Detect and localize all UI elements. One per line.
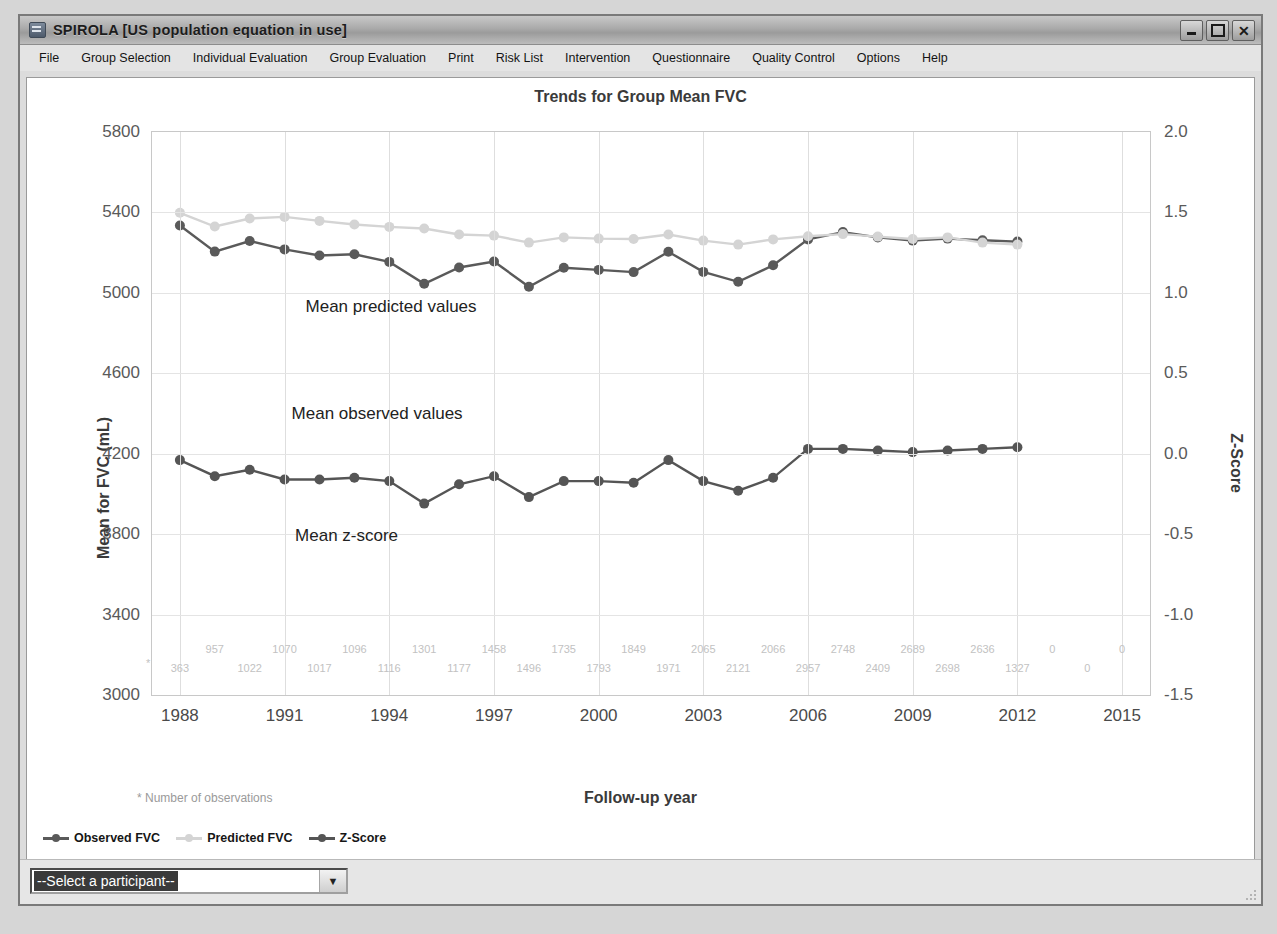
status-bar: --Select a participant-- ▼ bbox=[20, 859, 1261, 904]
gridline-vertical bbox=[494, 132, 495, 695]
x-axis-tick-label: 1988 bbox=[161, 706, 199, 726]
observation-count: 1849 bbox=[621, 643, 645, 655]
legend-marker-icon bbox=[176, 833, 202, 843]
observation-count: 2698 bbox=[935, 662, 959, 674]
maximize-icon[interactable] bbox=[1206, 20, 1229, 41]
observation-count: 0 bbox=[1049, 643, 1055, 655]
y-axis-tick-label-right: -0.5 bbox=[1164, 524, 1234, 544]
observation-count: 1735 bbox=[552, 643, 576, 655]
gridline-vertical bbox=[599, 132, 600, 695]
gridline-horizontal bbox=[152, 615, 1150, 616]
menu-item-file[interactable]: File bbox=[28, 47, 70, 69]
y-axis-tick-label-right: 2.0 bbox=[1164, 122, 1234, 142]
y-axis-tick-label-left: 3400 bbox=[50, 605, 140, 625]
x-axis-tick-label: 1997 bbox=[475, 706, 513, 726]
gridline-vertical bbox=[180, 132, 181, 695]
chart-panel: Trends for Group Mean FVC Mean for FVC (… bbox=[26, 77, 1255, 898]
chart-annotation: Mean observed values bbox=[292, 404, 463, 424]
participant-select-value: --Select a participant-- bbox=[34, 871, 178, 891]
menu-item-questionnaire[interactable]: Questionnaire bbox=[641, 47, 741, 69]
x-axis-tick-label: 2009 bbox=[894, 706, 932, 726]
gridline-vertical bbox=[285, 132, 286, 695]
menu-item-individual-evaluation[interactable]: Individual Evaluation bbox=[182, 47, 319, 69]
observation-count: 1301 bbox=[412, 643, 436, 655]
app-icon bbox=[29, 22, 46, 38]
observation-count: 1022 bbox=[237, 662, 261, 674]
screen: SPIROLA [US population equation in use] … bbox=[0, 0, 1277, 934]
x-axis-tick-label: 2012 bbox=[998, 706, 1036, 726]
y-axis-tick-label-left: 5400 bbox=[50, 202, 140, 222]
y-axis-tick-label-right: 0.5 bbox=[1164, 363, 1234, 383]
gridline-horizontal bbox=[152, 454, 1150, 455]
observation-count: 2957 bbox=[796, 662, 820, 674]
chart-annotation: Mean z-score bbox=[295, 526, 398, 546]
observation-count: 1971 bbox=[656, 662, 680, 674]
close-icon[interactable]: ✕ bbox=[1232, 20, 1255, 41]
chart-title: Trends for Group Mean FVC bbox=[27, 88, 1254, 106]
menu-item-help[interactable]: Help bbox=[911, 47, 959, 69]
legend-item-observed-fvc[interactable]: Observed FVC bbox=[43, 831, 160, 845]
observation-count: 1496 bbox=[517, 662, 541, 674]
observation-count: 1458 bbox=[482, 643, 506, 655]
chart-legend: Observed FVCPredicted FVCZ-Score bbox=[43, 831, 386, 845]
application-window: SPIROLA [US population equation in use] … bbox=[18, 14, 1263, 906]
legend-label: Observed FVC bbox=[74, 831, 160, 845]
y-axis-tick-label-right: 0.0 bbox=[1164, 444, 1234, 464]
gridline-horizontal bbox=[152, 293, 1150, 294]
menu-item-options[interactable]: Options bbox=[846, 47, 911, 69]
observation-count: 0 bbox=[1119, 643, 1125, 655]
observation-count: 2065 bbox=[691, 643, 715, 655]
x-axis-tick-label: 1994 bbox=[370, 706, 408, 726]
observation-count: 1017 bbox=[307, 662, 331, 674]
x-axis-tick-label: 2006 bbox=[789, 706, 827, 726]
observation-count: 1116 bbox=[378, 662, 401, 674]
observation-count: 957 bbox=[206, 643, 224, 655]
y-axis-tick-label-right: 1.0 bbox=[1164, 283, 1234, 303]
y-axis-tick-label-right: -1.5 bbox=[1164, 685, 1234, 705]
window-controls: ✕ bbox=[1180, 20, 1255, 41]
y-axis-tick-label-left: 3000 bbox=[50, 685, 140, 705]
menu-item-intervention[interactable]: Intervention bbox=[554, 47, 641, 69]
plot-area: * 19881991199419972000200320062009201220… bbox=[151, 131, 1151, 696]
legend-label: Predicted FVC bbox=[207, 831, 292, 845]
title-bar[interactable]: SPIROLA [US population equation in use] … bbox=[20, 16, 1261, 45]
client-area: Trends for Group Mean FVC Mean for FVC (… bbox=[20, 71, 1261, 904]
participant-select[interactable]: --Select a participant-- ▼ bbox=[30, 868, 348, 894]
legend-label: Z-Score bbox=[340, 831, 387, 845]
menu-item-risk-list[interactable]: Risk List bbox=[485, 47, 554, 69]
observations-asterisk: * bbox=[146, 657, 150, 669]
y-axis-tick-label-left: 5000 bbox=[50, 283, 140, 303]
legend-item-z-score[interactable]: Z-Score bbox=[309, 831, 387, 845]
legend-marker-icon bbox=[309, 833, 335, 843]
x-axis-tick-label: 2003 bbox=[684, 706, 722, 726]
observation-count: 1177 bbox=[447, 662, 471, 674]
observation-count: 1096 bbox=[342, 643, 366, 655]
x-axis-tick-label: 2015 bbox=[1103, 706, 1141, 726]
gridline-horizontal bbox=[152, 373, 1150, 374]
observation-count: 2748 bbox=[831, 643, 855, 655]
observations-footnote: * Number of observations bbox=[137, 791, 272, 805]
minimize-icon[interactable] bbox=[1180, 20, 1203, 41]
gridline-horizontal bbox=[152, 212, 1150, 213]
menu-item-quality-control[interactable]: Quality Control bbox=[741, 47, 846, 69]
menu-item-print[interactable]: Print bbox=[437, 47, 485, 69]
observation-count: 1070 bbox=[272, 643, 296, 655]
resize-grip[interactable] bbox=[1245, 889, 1257, 901]
observation-count: 2066 bbox=[761, 643, 785, 655]
chevron-down-icon[interactable]: ▼ bbox=[319, 870, 346, 892]
menu-item-group-evaluation[interactable]: Group Evaluation bbox=[318, 47, 437, 69]
y-axis-tick-label-right: -1.0 bbox=[1164, 605, 1234, 625]
y-axis-tick-label-left: 4600 bbox=[50, 363, 140, 383]
y-axis-tick-label-right: 1.5 bbox=[1164, 202, 1234, 222]
observation-count: 1327 bbox=[1005, 662, 1029, 674]
gridline-vertical bbox=[703, 132, 704, 695]
observation-count: 2636 bbox=[970, 643, 994, 655]
chart-annotation: Mean predicted values bbox=[306, 297, 477, 317]
menu-bar: FileGroup SelectionIndividual Evaluation… bbox=[20, 45, 1261, 72]
window-title: SPIROLA [US population equation in use] bbox=[53, 22, 347, 38]
gridline-vertical bbox=[1122, 132, 1123, 695]
legend-item-predicted-fvc[interactable]: Predicted FVC bbox=[176, 831, 292, 845]
x-axis-tick-label: 2000 bbox=[580, 706, 618, 726]
observation-count: 0 bbox=[1084, 662, 1090, 674]
menu-item-group-selection[interactable]: Group Selection bbox=[70, 47, 182, 69]
